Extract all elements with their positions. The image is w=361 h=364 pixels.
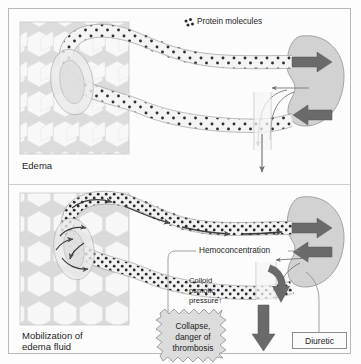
- panel-lower-caption-line1: Mobilization of: [22, 330, 83, 341]
- hemoconcentration-label: Hemoconcentration: [198, 246, 271, 256]
- colloid-osmotic-pressure-line2: osmotic: [189, 287, 215, 296]
- protein-dots-icon: [185, 18, 195, 27]
- panel-upper: [20, 18, 344, 172]
- thrombosis-label-line2: danger of: [165, 333, 221, 343]
- thrombosis-label-line1: Collapse,: [165, 322, 221, 332]
- panel-upper-caption: Edema: [22, 160, 52, 171]
- diagram-canvas: [0, 0, 361, 364]
- thrombosis-label-line3: thrombosis: [165, 344, 221, 354]
- diuretic-box: Diuretic: [292, 332, 347, 349]
- panel-lower-caption-line2: edema fluid: [22, 341, 71, 352]
- colloid-osmotic-pressure-line3: pressure↑: [189, 297, 222, 306]
- kidney-lower: [287, 197, 344, 287]
- figure-root: Protein molecules Edema Mobilization of …: [0, 0, 361, 364]
- colloid-osmotic-pressure-line1: Colloid: [189, 277, 212, 286]
- increased-urine-output-arrow: [252, 305, 275, 351]
- legend-protein-label: Protein molecules: [197, 17, 262, 27]
